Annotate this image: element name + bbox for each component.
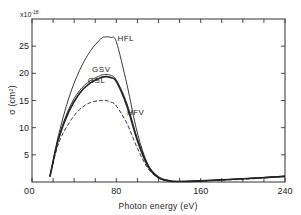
x-tick-label: 240: [277, 186, 292, 196]
y-tick-label: 20: [19, 68, 29, 78]
x-tick-label: 0: [29, 186, 34, 196]
curve-hfl: [50, 37, 285, 182]
curve-label-hfl: HFL: [117, 34, 134, 43]
data-curves: HFLGSVGSLHFV: [50, 34, 285, 182]
y-tick-label: 10: [19, 123, 29, 133]
y-tick-label: 25: [19, 41, 29, 51]
x-tick-label: 80: [111, 186, 121, 196]
cross-section-chart: 0801602400510152025 HFLGSVGSLHFV x10-18 …: [0, 0, 301, 215]
x-tick-label: 160: [193, 186, 208, 196]
y-tick-label: 5: [24, 150, 29, 160]
plot-border: [32, 19, 285, 182]
curve-gsv: [50, 74, 285, 181]
y-tick-label: 0: [24, 186, 29, 196]
plot-frame: [32, 19, 285, 182]
curve-hfv: [50, 100, 285, 181]
axis-ticks: 0801602400510152025: [19, 19, 293, 196]
y-axis-title: σ (cm²): [7, 85, 17, 115]
curve-label-gsl: GSL: [88, 76, 106, 85]
curve-label-hfv: HFV: [127, 108, 145, 117]
curve-label-gsv: GSV: [92, 65, 111, 74]
y-multiplier-label: x10-18: [20, 9, 39, 18]
y-tick-label: 15: [19, 96, 29, 106]
curve-gsl: [50, 77, 285, 182]
x-axis-title: Photon energy (eV): [118, 201, 197, 211]
